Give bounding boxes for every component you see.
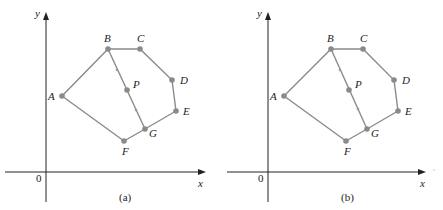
point-g	[364, 126, 370, 132]
label-e: E	[182, 105, 190, 117]
x-axis-label: x	[419, 177, 425, 189]
polygon-outline	[284, 49, 398, 141]
panel-b: x y 0 A B C D E G F P (b)	[227, 7, 435, 204]
panel-a: x y 0 A B C D E G F P (a)	[5, 7, 206, 204]
label-g: G	[371, 127, 379, 139]
caption-b: (b)	[341, 191, 354, 204]
label-p: P	[354, 78, 362, 90]
origin-label: 0	[36, 172, 42, 184]
point-c	[137, 46, 143, 52]
point-d	[169, 77, 175, 83]
label-c: C	[137, 32, 145, 44]
label-d: D	[401, 74, 410, 86]
y-axis-label: y	[34, 7, 40, 19]
x-axis-arrow-icon	[418, 169, 426, 175]
point-e	[395, 108, 401, 114]
point-c	[360, 46, 366, 52]
label-d: D	[179, 74, 188, 86]
tick-mark	[116, 69, 119, 72]
caption-a: (a)	[119, 191, 132, 204]
point-a	[59, 93, 65, 99]
tick-mark	[339, 69, 342, 72]
x-axis-arrow-icon	[198, 169, 206, 175]
label-c: C	[360, 32, 368, 44]
label-g: G	[149, 127, 157, 139]
label-f: F	[121, 145, 129, 157]
point-p	[346, 87, 352, 93]
point-e	[173, 108, 179, 114]
label-b: B	[327, 32, 334, 44]
point-f	[121, 138, 127, 144]
diagram-canvas: x y 0 A B C D E G F P (a) x y 0	[0, 0, 443, 210]
polygon-outline	[62, 49, 176, 141]
point-b	[105, 46, 111, 52]
point-p	[124, 87, 130, 93]
label-b: B	[104, 32, 111, 44]
y-axis-label: y	[256, 7, 262, 19]
y-axis-arrow-icon	[43, 12, 49, 20]
label-f: F	[343, 145, 351, 157]
label-e: E	[404, 105, 412, 117]
point-b	[328, 46, 334, 52]
label-a: A	[269, 90, 277, 102]
point-a	[281, 93, 287, 99]
origin-label: 0	[258, 172, 264, 184]
point-d	[391, 77, 397, 83]
label-a: A	[47, 90, 55, 102]
tick-mark	[135, 109, 138, 112]
y-axis-arrow-icon	[265, 12, 271, 20]
tick-mark	[357, 108, 360, 111]
x-axis-label: x	[197, 177, 203, 189]
point-f	[343, 138, 349, 144]
label-p: P	[132, 78, 140, 90]
point-g	[142, 126, 148, 132]
stray-dot	[433, 169, 435, 171]
